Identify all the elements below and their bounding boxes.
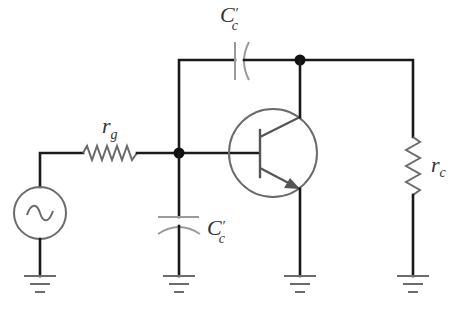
label-cc-input: C′c — [207, 215, 226, 246]
emitter-arrow-icon — [284, 178, 300, 189]
ground-icon-emitter — [284, 276, 316, 292]
resistor-rc: rc — [406, 137, 447, 195]
sine-wave-icon — [27, 206, 53, 221]
label-rc: rc — [431, 152, 447, 180]
resistor-rg: rg — [83, 113, 137, 160]
circuit-diagram: rg C′c C′c — [0, 0, 454, 316]
ground-icon-source — [24, 276, 56, 292]
transistor-collector-lead — [260, 117, 300, 137]
ac-source-branch — [14, 153, 83, 292]
label-rg: rg — [102, 113, 118, 142]
capacitor-cc-feedback: C′c — [220, 2, 249, 80]
ground-icon-load — [397, 276, 429, 292]
resistor-rg-icon — [83, 146, 137, 160]
wire-base-node-up — [179, 60, 235, 153]
wire-source-top — [40, 153, 83, 187]
resistor-rc-icon — [406, 137, 420, 195]
ac-source-icon — [14, 187, 66, 239]
capacitor-cc-input: C′c — [158, 215, 226, 246]
label-cc-feedback: C′c — [220, 2, 239, 33]
ground-icon-capacitor — [163, 276, 195, 292]
wire-top-collector — [244, 60, 413, 137]
